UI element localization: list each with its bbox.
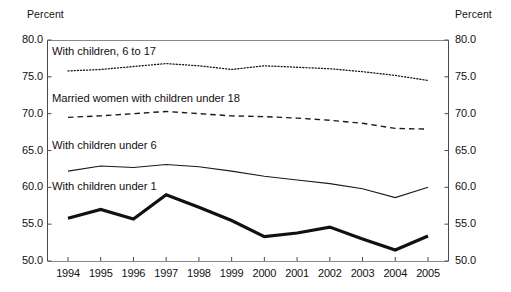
y-tick-label-right: 60.0	[455, 180, 485, 192]
series-label-married-women-children-under-18: Married women with children under 18	[52, 92, 240, 104]
chart-figure: Percent Percent 50.055.060.065.070.075.0…	[0, 0, 511, 292]
series-line-1	[68, 111, 428, 129]
y-tick-label-left: 80.0	[13, 33, 43, 45]
y-tick-label-right: 50.0	[455, 254, 485, 266]
series-line-0	[68, 64, 428, 81]
y-tick-label-right: 75.0	[455, 70, 485, 82]
series-label-children-under-1: With children under 1	[52, 180, 157, 192]
x-tick-label: 2005	[408, 267, 448, 279]
series-label-children-under-6: With children under 6	[52, 139, 157, 151]
series-label-children-6-to-17: With children, 6 to 17	[52, 45, 156, 57]
y-tick-label-left: 70.0	[13, 107, 43, 119]
y-tick-label-left: 60.0	[13, 180, 43, 192]
y-tick-label-left: 65.0	[13, 144, 43, 156]
x-tick-marks	[68, 257, 428, 261]
y-tick-label-left: 55.0	[13, 217, 43, 229]
series-line-3	[68, 195, 428, 250]
y-tick-label-right: 55.0	[455, 217, 485, 229]
y-tick-label-right: 70.0	[455, 107, 485, 119]
y-tick-label-right: 65.0	[455, 144, 485, 156]
y-tick-label-left: 75.0	[13, 70, 43, 82]
y-tick-label-left: 50.0	[13, 254, 43, 266]
y-tick-label-right: 80.0	[455, 33, 485, 45]
